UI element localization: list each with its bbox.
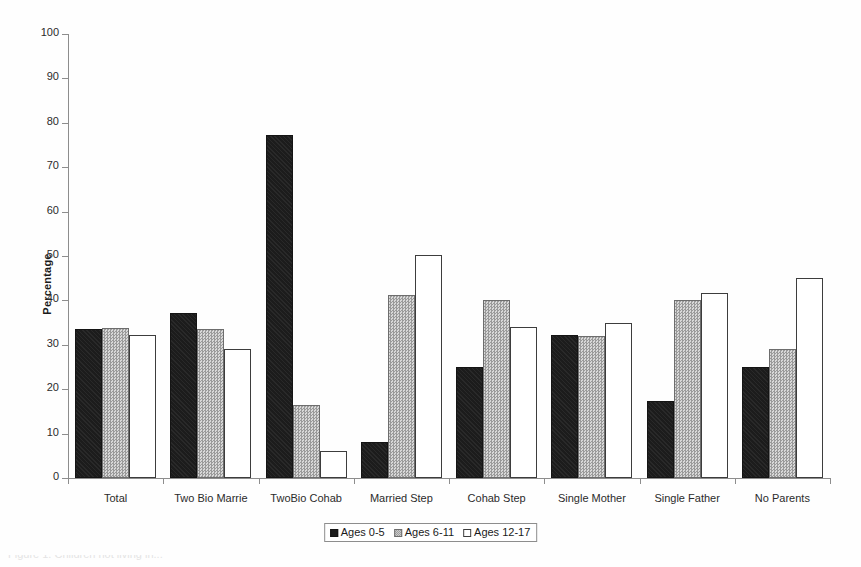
y-tick-mark (62, 434, 68, 435)
bar-group (551, 34, 632, 478)
bar-group-bars (647, 34, 728, 478)
bar-group (75, 34, 156, 478)
x-tick-label: Total (104, 492, 127, 504)
y-tick-mark (62, 300, 68, 301)
bar[interactable] (361, 442, 388, 478)
plot-area: 0102030405060708090100 TotalTwo Bio Marr… (68, 34, 830, 478)
bar-group (456, 34, 537, 478)
y-tick-label: 0 (53, 470, 59, 482)
y-tick-label: 90 (47, 70, 59, 82)
bar-group (266, 34, 347, 478)
y-tick-mark (62, 78, 68, 79)
y-tick-label: 80 (47, 115, 59, 127)
y-tick-mark (62, 389, 68, 390)
y-axis-line (68, 34, 69, 478)
legend-item[interactable]: Ages 0-5 (330, 527, 385, 538)
y-tick-label: 40 (47, 292, 59, 304)
bar-group (742, 34, 823, 478)
bar[interactable] (796, 278, 823, 478)
bar[interactable] (293, 405, 320, 478)
bar-group-bars (361, 34, 442, 478)
bar[interactable] (769, 349, 796, 478)
bar[interactable] (224, 349, 251, 478)
bar-group-bars (170, 34, 251, 478)
bar-group-bars (456, 34, 537, 478)
y-tick-label: 50 (47, 248, 59, 260)
bar-group-bars (75, 34, 156, 478)
x-tick-label: Single Father (654, 492, 719, 504)
y-tick-label: 70 (47, 159, 59, 171)
x-tick-label: Single Mother (558, 492, 626, 504)
x-tick-mark (640, 478, 641, 484)
legend-label: Ages 6-11 (405, 527, 454, 538)
y-tick-label: 10 (47, 426, 59, 438)
y-tick-mark (62, 256, 68, 257)
bar[interactable] (605, 323, 632, 478)
y-tick-mark (62, 345, 68, 346)
bar-group (170, 34, 251, 478)
legend-item[interactable]: Ages 6-11 (394, 527, 454, 538)
y-tick-mark (62, 34, 68, 35)
bar-group-bars (742, 34, 823, 478)
bar[interactable] (102, 328, 129, 478)
legend-label: Ages 0-5 (341, 527, 385, 538)
bar[interactable] (483, 300, 510, 478)
x-tick-mark (163, 478, 164, 484)
bar[interactable] (75, 329, 102, 478)
bar[interactable] (266, 135, 293, 478)
bar[interactable] (197, 329, 224, 478)
bar-group-bars (551, 34, 632, 478)
x-tick-label: Two Bio Marrie (174, 492, 247, 504)
x-tick-label: TwoBio Cohab (270, 492, 342, 504)
x-tick-mark (68, 478, 69, 484)
x-tick-mark (449, 478, 450, 484)
x-tick-label: Cohab Step (468, 492, 526, 504)
bar[interactable] (578, 336, 605, 478)
bar-group (647, 34, 728, 478)
bar[interactable] (320, 451, 347, 478)
bar[interactable] (415, 255, 442, 478)
y-tick-mark (62, 123, 68, 124)
bar[interactable] (170, 313, 197, 478)
bar[interactable] (129, 335, 156, 478)
bar-group-bars (266, 34, 347, 478)
legend-swatch-icon (463, 529, 471, 537)
legend-swatch-icon (330, 529, 338, 537)
legend-swatch-icon (394, 529, 402, 537)
x-tick-mark (544, 478, 545, 484)
y-tick-label: 30 (47, 337, 59, 349)
legend-label: Ages 12-17 (474, 527, 530, 538)
bar[interactable] (742, 367, 769, 478)
bar[interactable] (388, 295, 415, 478)
x-tick-mark (259, 478, 260, 484)
y-tick-label: 60 (47, 204, 59, 216)
y-axis-title: Percentage (41, 253, 53, 314)
bar-group (361, 34, 442, 478)
y-tick-label: 20 (47, 381, 59, 393)
bar[interactable] (674, 300, 701, 478)
chart-legend: Ages 0-5Ages 6-11Ages 12-17 (324, 523, 538, 542)
legend-item[interactable]: Ages 12-17 (463, 527, 530, 538)
bar[interactable] (647, 401, 674, 478)
bar[interactable] (456, 367, 483, 478)
cropped-caption-artifact: Figure 1. Children not living in... (8, 555, 163, 567)
bar[interactable] (510, 327, 537, 478)
x-tick-label: Married Step (370, 492, 433, 504)
y-tick-mark (62, 167, 68, 168)
bar[interactable] (701, 293, 728, 478)
x-tick-mark (735, 478, 736, 484)
bar[interactable] (551, 335, 578, 478)
y-tick-label: 100 (41, 26, 59, 38)
y-tick-mark (62, 212, 68, 213)
x-tick-mark (354, 478, 355, 484)
x-tick-label: No Parents (755, 492, 810, 504)
x-tick-mark (830, 478, 831, 484)
figure-canvas: Percentage 0102030405060708090100 TotalT… (0, 0, 861, 567)
